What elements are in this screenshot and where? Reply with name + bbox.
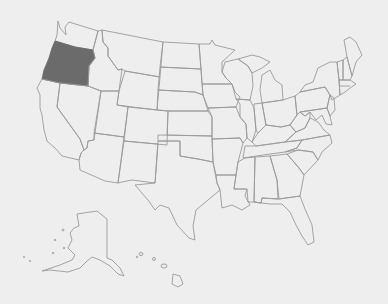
us-map: United States <box>0 0 388 304</box>
alaska-island <box>29 260 30 261</box>
state-hawaii[interactable] <box>136 253 183 288</box>
state-north-dakota[interactable] <box>160 42 201 69</box>
state-michigan[interactable] <box>238 55 283 103</box>
state-wisconsin[interactable] <box>222 59 253 100</box>
state-kansas[interactable] <box>167 111 212 136</box>
alaska-island <box>23 256 24 257</box>
state-wyoming[interactable] <box>117 71 160 110</box>
state-vermont[interactable] <box>337 60 343 80</box>
state-louisiana[interactable] <box>216 175 250 210</box>
state-nebraska[interactable] <box>157 90 208 111</box>
state-texas[interactable] <box>135 141 220 240</box>
state-west-virginia[interactable] <box>290 112 310 132</box>
state-alabama[interactable] <box>254 156 278 203</box>
state-iowa[interactable] <box>202 84 240 108</box>
state-maine[interactable] <box>344 37 362 76</box>
state-arizona[interactable] <box>79 133 124 183</box>
state-montana[interactable] <box>102 30 163 77</box>
state-virginia[interactable] <box>285 118 330 142</box>
state-new-york[interactable] <box>300 62 340 100</box>
alaska-island <box>54 239 56 241</box>
state-colorado[interactable] <box>124 107 168 145</box>
state-oklahoma[interactable] <box>158 135 213 162</box>
state-indiana[interactable] <box>254 103 266 133</box>
state-utah[interactable] <box>94 91 128 137</box>
state-arkansas[interactable] <box>212 138 243 175</box>
alaska-island <box>62 229 64 231</box>
state-maryland-delaware[interactable] <box>300 108 332 125</box>
state-mississippi[interactable] <box>234 157 255 202</box>
state-idaho[interactable] <box>88 30 122 91</box>
state-illinois[interactable] <box>236 99 256 142</box>
alaska-island <box>52 252 54 254</box>
state-kentucky[interactable] <box>252 125 296 146</box>
state-florida[interactable] <box>254 196 314 245</box>
state-california[interactable] <box>37 79 84 160</box>
state-missouri[interactable] <box>208 107 247 143</box>
state-minnesota[interactable] <box>199 40 235 84</box>
us-map-svg <box>0 0 388 304</box>
state-southern-new-england[interactable] <box>339 80 356 95</box>
alaska-island <box>63 247 65 249</box>
state-new-mexico[interactable] <box>118 141 158 183</box>
state-oregon[interactable] <box>42 41 95 86</box>
state-south-carolina[interactable] <box>287 150 318 175</box>
state-georgia[interactable] <box>270 154 304 199</box>
state-alaska[interactable] <box>42 211 124 276</box>
